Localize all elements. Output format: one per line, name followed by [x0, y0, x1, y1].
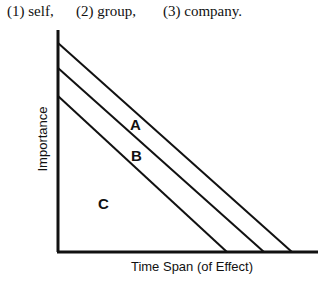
region-label-b: B — [131, 147, 142, 164]
importance-timespan-diagram: A B C Importance Time Span (of Effect) — [0, 0, 328, 286]
y-axis-label: Importance — [35, 106, 50, 171]
region-label-c: C — [98, 195, 109, 212]
region-label-a: A — [130, 116, 141, 133]
middle-diagonal-line — [58, 68, 264, 252]
outer-diagonal-line — [58, 43, 292, 252]
x-axis-label: Time Span (of Effect) — [131, 259, 253, 274]
